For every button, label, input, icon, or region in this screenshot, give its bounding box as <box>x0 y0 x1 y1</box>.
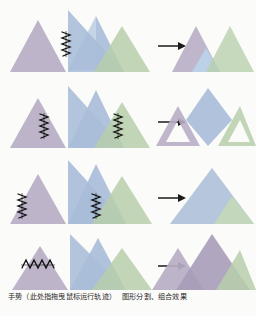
row-1-result-shapes <box>172 26 254 72</box>
caption-effect-text: 图形分割、组合效果 <box>122 292 187 301</box>
row-4-canvas <box>0 232 256 294</box>
row-1-canvas <box>0 4 256 80</box>
caption-gesture-text: 手势（此处指拖曳鼠标运行轨迹） <box>8 292 116 301</box>
row-2-source-shapes <box>10 86 150 148</box>
figure-caption: 手势（此处指拖曳鼠标运行轨迹）图形分割、组合效果 <box>8 292 252 302</box>
purple-triangle <box>10 98 66 148</box>
purple-triangle <box>12 246 68 290</box>
row-4-result-shapes <box>152 234 256 290</box>
row-1-source-shapes <box>10 10 150 72</box>
row-3-result-shapes <box>170 168 254 224</box>
row-2-result-shapes <box>156 88 256 146</box>
row-1 <box>0 4 256 80</box>
gesture-shape-figure: 手势（此处指拖曳鼠标运行轨迹）图形分割、组合效果 <box>0 0 256 316</box>
row-2-canvas <box>0 80 256 156</box>
row-3-source-shapes <box>10 160 152 224</box>
result-green-triangle <box>206 26 254 72</box>
purple-triangle <box>10 174 66 224</box>
arrow-icon <box>158 42 186 50</box>
row-3-canvas <box>0 156 256 232</box>
row-2 <box>0 80 256 156</box>
arrow-icon <box>158 194 186 202</box>
purple-triangle <box>10 20 66 72</box>
row-4 <box>0 232 256 294</box>
row-3 <box>0 156 256 232</box>
